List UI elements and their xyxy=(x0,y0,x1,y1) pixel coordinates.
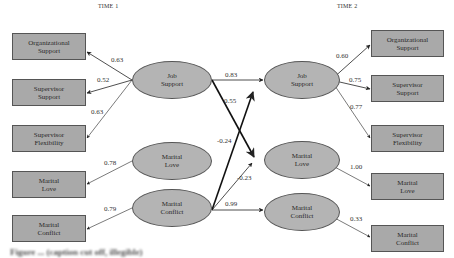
t1-indicator-org-support: Organizational Support xyxy=(12,33,86,60)
t1-indicator-sup-flex: Supervisor Flexibility xyxy=(12,125,86,152)
indicator-label: Supervisor Flexibility xyxy=(34,131,64,147)
latent-label: Job Support xyxy=(161,72,183,88)
coef-path-mc-ml: -0.23 xyxy=(237,174,252,182)
coef-path-mc-js: -0.24 xyxy=(217,137,232,145)
t1-indicator-marital-conflict: Marital Conflict xyxy=(12,215,86,242)
t1-indicator-marital-love: Marital Love xyxy=(12,171,86,198)
coef-t2-org-support: 0.60 xyxy=(336,52,348,60)
indicator-label: Marital Conflict xyxy=(38,221,61,237)
coef-t2-sup-support: 0.75 xyxy=(349,76,361,84)
indicator-label: Organizational Support xyxy=(387,36,428,52)
coef-t1-sup-support: 0.52 xyxy=(97,76,109,84)
indicator-label: Supervisor Flexibility xyxy=(392,131,422,147)
t2-indicator-sup-flex: Supervisor Flexibility xyxy=(371,125,444,152)
t1-latent-job-support: Job Support xyxy=(132,61,212,99)
path-mc-js xyxy=(212,92,253,210)
t2-latent-marital-conflict: Marital Conflict xyxy=(264,193,340,231)
indicator-label: Organizational Support xyxy=(28,39,69,55)
coef-path-js-ml: 0.55 xyxy=(224,97,236,105)
coef-path-js-js: 0.83 xyxy=(225,71,237,79)
t2-latent-marital-love: Marital Love xyxy=(264,141,340,179)
loading-arrow-t1-sup-support xyxy=(87,80,132,93)
t2-indicator-marital-love: Marital Love xyxy=(371,173,444,200)
coef-t1-org-support: 0.63 xyxy=(111,56,123,64)
indicator-label: Marital Conflict xyxy=(396,231,419,247)
t2-latent-job-support: Job Support xyxy=(264,61,340,99)
coef-path-mc-mc: 0.99 xyxy=(225,200,237,208)
time2-label: TIME 2 xyxy=(337,3,357,9)
t1-latent-marital-love: Marital Love xyxy=(132,142,212,180)
indicator-label: Marital Love xyxy=(39,177,60,193)
coef-t1-sup-flex: 0.63 xyxy=(91,108,103,116)
indicator-label: Supervisor Support xyxy=(392,81,422,97)
coef-t2-marital-love: 1.00 xyxy=(350,163,362,171)
coef-t1-marital-love: 0.78 xyxy=(104,159,116,167)
time1-label: TIME 1 xyxy=(98,3,118,9)
coef-t2-marital-conflict: 0.33 xyxy=(350,215,362,223)
loading-arrow-t1-org-support xyxy=(87,52,132,80)
t1-indicator-sup-support: Supervisor Support xyxy=(12,79,86,106)
t2-indicator-org-support: Organizational Support xyxy=(371,30,444,57)
latent-label: Marital Love xyxy=(162,153,183,169)
latent-label: Marital Conflict xyxy=(161,200,184,216)
latent-label: Job Support xyxy=(291,72,313,88)
path-js-ml xyxy=(212,80,254,157)
latent-label: Marital Conflict xyxy=(291,204,314,220)
latent-label: Marital Love xyxy=(292,152,313,168)
t2-indicator-marital-conflict: Marital Conflict xyxy=(371,225,444,252)
indicator-label: Supervisor Support xyxy=(34,85,64,101)
t1-latent-marital-conflict: Marital Conflict xyxy=(132,189,212,227)
coef-t2-sup-flex: 0.77 xyxy=(350,103,362,111)
figure-caption: Figure ... (caption cut off, illegible) xyxy=(10,247,143,257)
t2-indicator-sup-support: Supervisor Support xyxy=(371,75,444,102)
coef-t1-marital-conflict: 0.79 xyxy=(104,205,116,213)
indicator-label: Marital Love xyxy=(397,179,418,195)
